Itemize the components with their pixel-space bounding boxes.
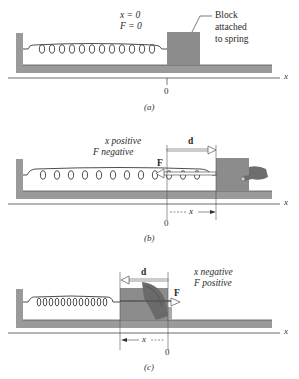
state-x: x = 0 bbox=[120, 10, 140, 21]
spring-icon bbox=[23, 44, 167, 54]
block-label-2: attached bbox=[215, 22, 247, 33]
origin-tick: 0 bbox=[165, 347, 170, 357]
panel-b: x positive F negative F d x x 0 (b) bbox=[0, 125, 299, 250]
floor bbox=[16, 65, 272, 73]
axis-label: x bbox=[284, 326, 288, 336]
state-x: x positive bbox=[105, 136, 141, 147]
state-f: F positive bbox=[194, 278, 232, 289]
panel-b-drawing bbox=[0, 125, 299, 250]
displacement-arrow-icon bbox=[167, 146, 216, 154]
caption-a: (a) bbox=[144, 102, 155, 112]
block-label-3: to spring bbox=[215, 34, 249, 45]
force-label: F bbox=[174, 288, 180, 299]
displacement-label: d bbox=[141, 267, 146, 278]
block bbox=[167, 32, 200, 65]
x-measure-label: x bbox=[142, 334, 146, 345]
block-label-1: Block bbox=[215, 10, 238, 21]
origin-tick: 0 bbox=[164, 218, 169, 228]
panel-c: x negative F positive F d x x 0 (c) bbox=[0, 250, 299, 379]
caption-b: (b) bbox=[144, 233, 155, 243]
caption-c: (c) bbox=[144, 362, 154, 372]
axis-label: x bbox=[284, 197, 288, 207]
axis-label: x bbox=[284, 71, 288, 81]
spring-icon bbox=[23, 296, 120, 306]
panel-a: x = 0 F = 0 Block attached to spring x 0… bbox=[0, 0, 299, 120]
displacement-label: d bbox=[188, 136, 193, 147]
block bbox=[216, 158, 249, 191]
state-f: F negative bbox=[93, 147, 133, 158]
floor bbox=[16, 191, 272, 199]
x-measure-label: x bbox=[189, 206, 193, 217]
state-x: x negative bbox=[194, 267, 233, 278]
floor bbox=[16, 320, 272, 328]
force-label: F bbox=[157, 158, 163, 169]
origin-tick: 0 bbox=[164, 86, 169, 96]
panel-c-drawing bbox=[0, 250, 299, 379]
state-f: F = 0 bbox=[120, 21, 142, 32]
